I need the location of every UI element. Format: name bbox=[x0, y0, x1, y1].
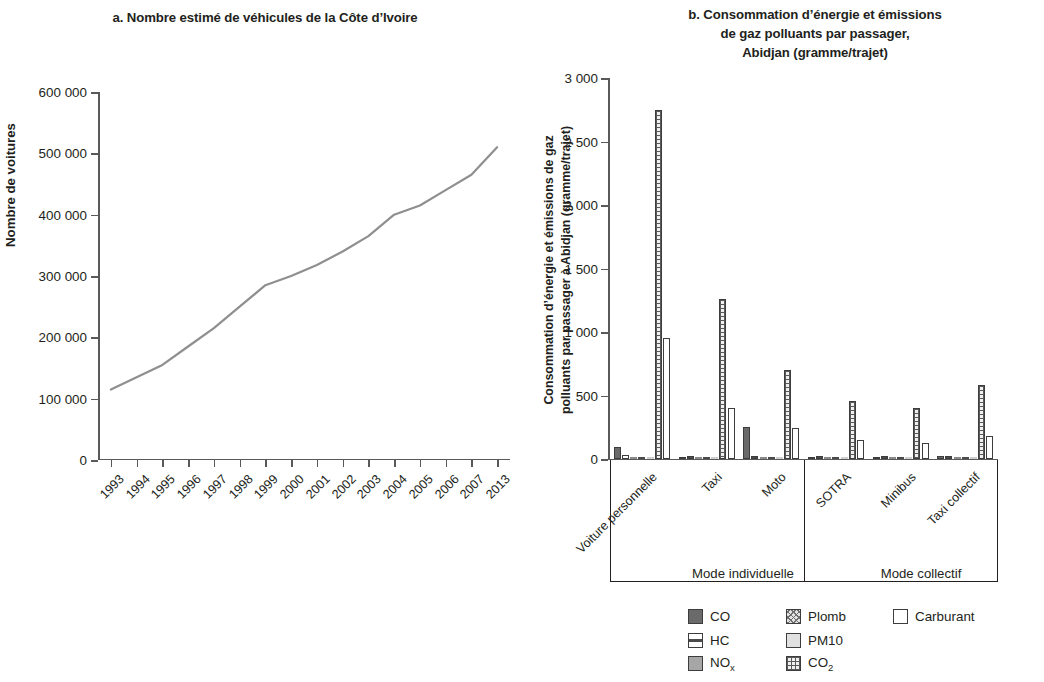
x-tick-label: 2000 bbox=[277, 472, 307, 502]
y-tick-label: 1 000 bbox=[564, 325, 598, 340]
bar-group bbox=[610, 78, 675, 459]
y-tick-label: 1 500 bbox=[564, 261, 598, 276]
bar-hc bbox=[751, 456, 758, 459]
y-tick-mark bbox=[91, 276, 98, 278]
panel-b-plot-area: 05001 0001 5002 0002 5003 000 Voiture pe… bbox=[608, 78, 998, 460]
x-tick-mark bbox=[317, 460, 318, 467]
bar-hc bbox=[622, 455, 629, 459]
bar-pm10 bbox=[905, 457, 912, 459]
group-bracket-individuelle bbox=[610, 581, 804, 582]
legend-swatch-carburant-icon bbox=[893, 609, 908, 624]
legend-item-co2: CO2 bbox=[786, 655, 833, 673]
y-tick-mark bbox=[91, 337, 98, 339]
legend-item-hc: HC bbox=[688, 633, 729, 648]
bar-co2 bbox=[655, 110, 662, 459]
panel-b-title-line1: b. Consommation d’énergie et émissions bbox=[650, 5, 980, 24]
group-label-mode-individuelle: Mode individuelle bbox=[648, 566, 838, 581]
bar-nox bbox=[695, 457, 702, 459]
bar-pm10 bbox=[841, 457, 848, 459]
x-category-label: Moto bbox=[759, 470, 789, 500]
x-tick-mark bbox=[265, 460, 266, 467]
bar-nox bbox=[954, 457, 961, 459]
y-tick-label: 500 000 bbox=[39, 146, 87, 161]
x-tick-label: 1998 bbox=[226, 472, 256, 502]
group-label-mode-collectif: Mode collectif bbox=[826, 566, 1016, 581]
bar-co2 bbox=[913, 408, 920, 459]
bar-plomb bbox=[768, 457, 775, 459]
x-tick-mark bbox=[368, 460, 369, 467]
bar-plomb bbox=[638, 457, 645, 459]
y-tick-label: 200 000 bbox=[39, 330, 87, 345]
panel-a-y-axis-label: Nombre de voitures bbox=[3, 123, 18, 247]
x-tick-mark bbox=[240, 460, 241, 467]
bar-nox bbox=[889, 457, 896, 459]
legend-label-nox: NOx bbox=[710, 655, 735, 673]
bar-carburant bbox=[986, 436, 993, 459]
bar-group bbox=[674, 78, 739, 459]
legend-label-co2: CO2 bbox=[808, 655, 833, 673]
panel-vehicle-count-chart: a. Nombre estimé de véhicules de la Côte… bbox=[0, 0, 530, 682]
y-tick-mark bbox=[601, 142, 608, 144]
bar-plomb bbox=[832, 457, 839, 459]
x-tick-mark bbox=[343, 460, 344, 467]
y-tick-mark bbox=[601, 396, 608, 398]
bar-carburant bbox=[792, 428, 799, 459]
x-tick-mark bbox=[111, 460, 112, 467]
bar-pm10 bbox=[970, 457, 977, 459]
y-tick-mark bbox=[601, 78, 608, 80]
bar-co bbox=[679, 457, 686, 459]
bar-hc bbox=[945, 456, 952, 459]
x-tick-mark bbox=[446, 460, 447, 467]
legend-swatch-plomb-icon bbox=[786, 609, 801, 624]
panel-emissions-chart: b. Consommation d’énergie et émissions d… bbox=[530, 0, 1044, 682]
y-tick-mark bbox=[601, 332, 608, 334]
bar-co2 bbox=[719, 299, 726, 459]
legend-label-hc: HC bbox=[710, 633, 729, 648]
legend-swatch-nox-icon bbox=[688, 656, 703, 671]
panel-a-line-series bbox=[98, 92, 510, 460]
x-tick-mark bbox=[471, 460, 472, 467]
bar-plomb bbox=[897, 457, 904, 459]
legend-label-carburant: Carburant bbox=[915, 609, 975, 624]
x-tick-label: 1994 bbox=[123, 472, 153, 502]
legend-label-pm10: PM10 bbox=[808, 633, 843, 648]
bar-pm10 bbox=[711, 457, 718, 459]
x-category-label: Minibus bbox=[878, 470, 919, 511]
legend-swatch-co-icon bbox=[688, 609, 703, 624]
bar-carburant bbox=[663, 338, 670, 459]
x-category-label: SOTRA bbox=[813, 470, 854, 511]
y-tick-label: 600 000 bbox=[39, 85, 87, 100]
bar-hc bbox=[816, 456, 823, 459]
y-tick-mark bbox=[91, 92, 98, 94]
x-tick-mark bbox=[291, 460, 292, 467]
x-tick-mark bbox=[497, 460, 498, 467]
y-tick-label: 400 000 bbox=[39, 207, 87, 222]
x-tick-label: 2007 bbox=[458, 472, 488, 502]
y-tick-label: 0 bbox=[591, 452, 598, 467]
panel-b-title-line3: Abidjan (gramme/trajet) bbox=[650, 43, 980, 62]
group-divider-left bbox=[610, 460, 611, 582]
panel-a-title: a. Nombre estimé de véhicules de la Côte… bbox=[40, 8, 490, 27]
bar-hc bbox=[687, 456, 694, 459]
bar-group bbox=[868, 78, 933, 459]
y-tick-label: 300 000 bbox=[39, 269, 87, 284]
y-tick-mark bbox=[601, 205, 608, 207]
y-tick-mark bbox=[91, 215, 98, 217]
bar-co bbox=[743, 427, 750, 459]
bar-group bbox=[739, 78, 804, 459]
y-tick-label: 500 bbox=[576, 388, 598, 403]
legend-label-co: CO bbox=[710, 609, 730, 624]
legend-item-nox: NOx bbox=[688, 655, 735, 673]
panel-b-title: b. Consommation d’énergie et émissions d… bbox=[650, 5, 980, 62]
bar-nox bbox=[760, 457, 767, 459]
x-category-label: Voiture personnelle bbox=[574, 470, 660, 556]
bar-nox bbox=[630, 457, 637, 459]
x-tick-label: 2013 bbox=[483, 472, 513, 502]
x-tick-label: 1996 bbox=[174, 472, 204, 502]
legend-item-co: CO bbox=[688, 609, 730, 624]
x-tick-label: 1995 bbox=[149, 472, 179, 502]
x-tick-mark bbox=[214, 460, 215, 467]
legend-label-plomb: Plomb bbox=[808, 609, 846, 624]
bar-co2 bbox=[849, 401, 856, 459]
bar-carburant bbox=[922, 443, 929, 459]
